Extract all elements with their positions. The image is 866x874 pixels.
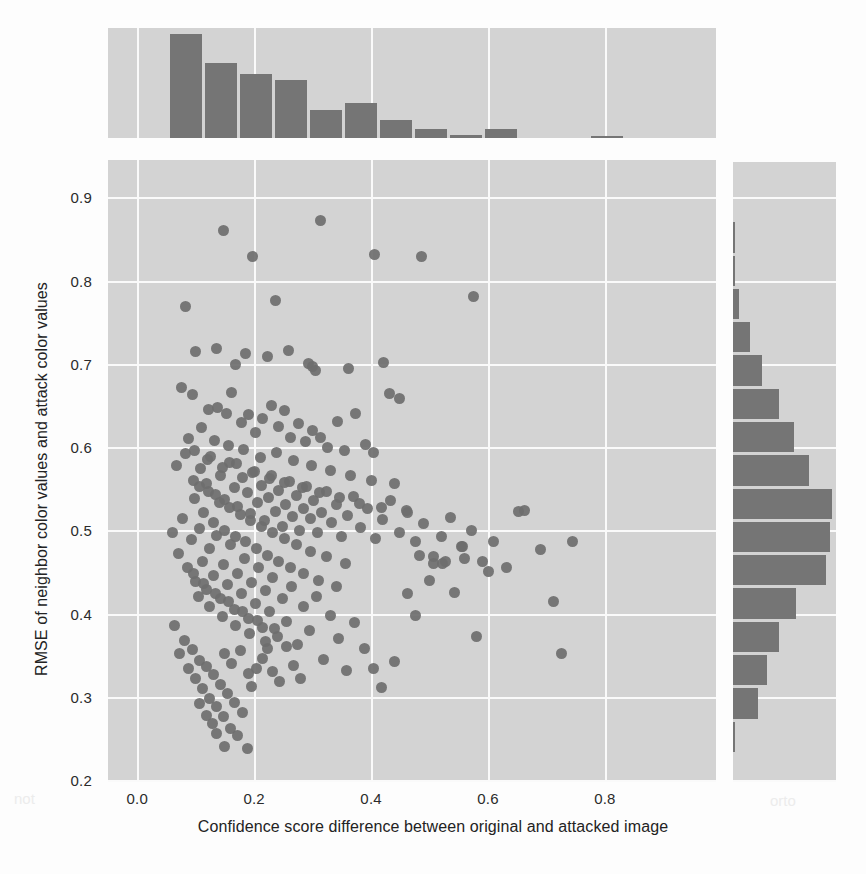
gridline-vertical — [137, 160, 139, 780]
scatter-point — [257, 413, 268, 424]
scatter-point — [169, 620, 180, 631]
top-histogram-bar — [345, 103, 377, 138]
scatter-point — [369, 249, 380, 260]
scatter-point — [359, 643, 370, 654]
scatter-point — [222, 579, 233, 590]
scatter-point — [204, 601, 215, 612]
scatter-point — [297, 482, 308, 493]
scatter-point — [195, 463, 206, 474]
scatter-point — [304, 625, 315, 636]
x-tick-label: 0.4 — [360, 790, 381, 807]
scatter-point — [237, 707, 248, 718]
scatter-point — [240, 348, 251, 359]
scatter-point — [279, 533, 290, 544]
scatter-point — [306, 460, 317, 471]
scatter-point — [229, 697, 240, 708]
scatter-point — [196, 422, 207, 433]
scatter-point — [224, 502, 235, 513]
scatter-point — [318, 654, 329, 665]
scatter-point — [260, 585, 271, 596]
scatter-point — [548, 596, 559, 607]
gridline-vertical — [605, 28, 607, 138]
scatter-point — [325, 465, 336, 476]
scatter-point — [204, 543, 215, 554]
scatter-point — [488, 536, 499, 547]
scatter-point — [325, 610, 336, 621]
scatter-point — [250, 427, 261, 438]
scatter-point — [285, 432, 296, 443]
top-histogram-bar — [450, 135, 482, 138]
scatter-point — [316, 507, 327, 518]
right-histogram-bar — [733, 389, 779, 419]
scatter-point — [257, 653, 268, 664]
x-tick-label: 0.2 — [243, 790, 264, 807]
scatter-point — [262, 550, 273, 561]
right-histogram-bar — [733, 655, 767, 685]
scatter-point — [270, 295, 281, 306]
scatter-point — [218, 559, 229, 570]
scatter-point — [269, 623, 280, 634]
scatter-point — [286, 581, 297, 592]
scatter-point — [188, 568, 199, 579]
scan-artifact-right: orto — [770, 792, 796, 809]
scatter-point — [242, 743, 253, 754]
scatter-point — [230, 359, 241, 370]
scatter-point — [287, 511, 298, 522]
scatter-point — [255, 452, 266, 463]
scatter-point — [235, 645, 246, 656]
scatter-point — [274, 676, 285, 687]
scatter-point — [331, 581, 342, 592]
scatter-point — [208, 669, 219, 680]
scatter-point — [211, 343, 222, 354]
scatter-point — [336, 531, 347, 542]
right-histogram-bar — [733, 588, 796, 618]
scatter-point — [281, 641, 292, 652]
scatter-point — [333, 633, 344, 644]
scatter-point — [236, 588, 247, 599]
right-marginal-histogram — [733, 162, 836, 780]
scatter-point — [235, 509, 246, 520]
scatter-point — [339, 445, 350, 456]
scatter-point — [332, 416, 343, 427]
scatter-point — [370, 533, 381, 544]
scatter-point — [219, 741, 230, 752]
scatter-point — [256, 521, 267, 532]
scan-artifact-left: not — [14, 790, 35, 807]
scatter-point — [180, 301, 191, 312]
scatter-point — [219, 525, 230, 536]
top-marginal-histogram — [108, 28, 716, 138]
scatter-point — [377, 514, 388, 525]
scatter-point — [354, 498, 365, 509]
y-tick-label: 0.3 — [46, 688, 92, 705]
x-tick-label: 0.0 — [126, 790, 147, 807]
top-histogram-bar — [380, 120, 412, 138]
right-histogram-bar — [733, 422, 794, 452]
scatter-point — [264, 606, 275, 617]
scatter-point — [298, 568, 309, 579]
scatter-point — [315, 215, 326, 226]
gridline-horizontal — [733, 780, 836, 782]
scatter-point — [237, 472, 248, 483]
scatter-point — [401, 505, 412, 516]
scatter-point — [264, 473, 275, 484]
scatter-point — [245, 515, 256, 526]
scatter-point — [349, 617, 360, 628]
scatter-point — [279, 405, 290, 416]
y-tick-label: 0.6 — [46, 439, 92, 456]
scatter-point — [189, 493, 200, 504]
scatter-point — [501, 562, 512, 573]
scatter-point — [198, 507, 209, 518]
scatter-point — [238, 444, 249, 455]
right-histogram-bar — [733, 222, 735, 252]
scatter-point — [202, 454, 213, 465]
scatter-point — [243, 409, 254, 420]
scatter-point — [295, 673, 306, 684]
scatter-point — [271, 447, 282, 458]
scatter-point — [385, 495, 396, 506]
gridline-vertical — [605, 160, 607, 780]
top-histogram-bar — [275, 80, 307, 138]
scatter-point — [189, 445, 200, 456]
scatter-point — [267, 527, 278, 538]
scatter-point — [440, 556, 451, 567]
scatter-point — [402, 588, 413, 599]
